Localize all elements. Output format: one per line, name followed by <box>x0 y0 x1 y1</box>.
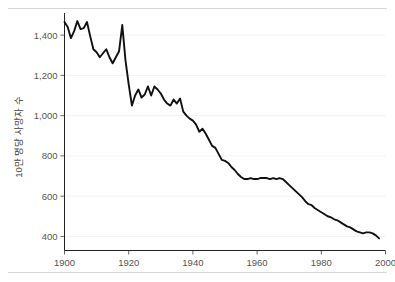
y-tick-label: 1,400 <box>34 30 58 41</box>
y-tick-label: 400 <box>42 231 58 242</box>
y-tick-label: 1,000 <box>34 110 58 121</box>
y-axis-label: 10만 명당 사망자 수 <box>13 96 24 178</box>
x-tick-label: 1900 <box>54 257 75 268</box>
x-tick-label: 2000 <box>375 257 395 268</box>
line-chart-plot: 4006008001,0001,2001,400 190019201940196… <box>0 0 395 282</box>
y-tick-label: 600 <box>42 191 58 202</box>
x-tick-label: 1980 <box>311 257 332 268</box>
gridlines-group <box>65 35 386 236</box>
x-tick-group: 190019201940196019802000 <box>54 251 395 268</box>
axis-lines-group <box>65 13 386 251</box>
series-group <box>65 21 380 238</box>
x-tick-label: 1940 <box>182 257 203 268</box>
chart-figure: 4006008001,0001,2001,400 190019201940196… <box>0 0 395 282</box>
x-tick-label: 1960 <box>247 257 268 268</box>
y-tick-group: 4006008001,0001,2001,400 <box>34 30 65 242</box>
data-series-line <box>65 21 380 238</box>
x-tick-label: 1920 <box>118 257 139 268</box>
y-tick-label: 800 <box>42 150 58 161</box>
y-tick-label: 1,200 <box>34 70 58 81</box>
